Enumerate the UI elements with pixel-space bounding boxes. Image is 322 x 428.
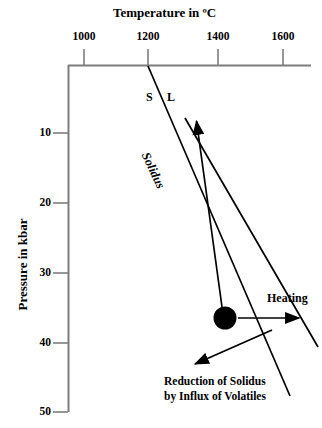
x-tick-label-1000: 1000 (64, 31, 104, 43)
decompression-arrow (197, 121, 223, 307)
x-tick-label-1400: 1400 (198, 31, 238, 43)
starting-condition-marker (214, 307, 237, 330)
heating-arrow-label: Heating (267, 292, 308, 304)
y-axis-title: Pressure in kbar (16, 217, 29, 313)
volatile-influx-label-line2: by Influx of Volatiles (164, 389, 266, 404)
y-tick-label-40: 40 (27, 337, 51, 349)
plot-area (0, 0, 322, 428)
y-tick-label-10: 10 (27, 127, 51, 139)
y-tick-label-20: 20 (27, 197, 51, 209)
x-tick-label-1600: 1600 (263, 31, 303, 43)
y-tick-label-50: 50 (27, 406, 51, 418)
volatile-influx-arrow (195, 330, 272, 364)
phase-diagram-figure: Temperature in ºC 1000 1200 1400 1600 10… (0, 0, 322, 428)
y-tick-label-30: 30 (27, 267, 51, 279)
x-tick-label-1200: 1200 (128, 31, 168, 43)
liquid-phase-label: L (167, 91, 175, 103)
volatile-influx-label-line1: Reduction of Solidus (164, 374, 266, 389)
solidus-line (148, 66, 290, 396)
solid-phase-label: S (146, 91, 153, 103)
x-axis-title: Temperature in ºC (113, 6, 216, 19)
reduced-solidus-line (185, 118, 318, 347)
volatile-influx-label: Reduction of Solidus by Influx of Volati… (164, 374, 266, 403)
